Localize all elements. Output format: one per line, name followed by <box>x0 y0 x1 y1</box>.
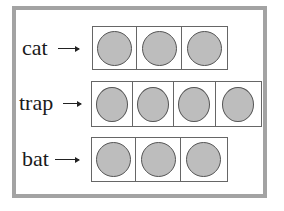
sound-token <box>187 31 222 66</box>
sound-box-row-trap <box>91 81 262 127</box>
arrow-icon <box>55 159 79 160</box>
sound-box <box>92 82 133 126</box>
arrow-icon <box>58 48 79 49</box>
sound-box <box>182 27 227 69</box>
sound-box <box>92 138 136 181</box>
sound-token <box>141 142 176 177</box>
word-label-cat: cat <box>22 37 48 59</box>
sound-token <box>96 142 131 177</box>
sound-box <box>133 82 175 126</box>
word-label-trap: trap <box>19 92 53 114</box>
sound-token <box>96 87 128 122</box>
word-label-bat: bat <box>22 148 49 170</box>
sound-box <box>174 82 216 126</box>
sound-token <box>222 87 254 122</box>
sound-token <box>137 87 169 122</box>
sound-box <box>137 27 181 69</box>
sound-box-row-cat <box>92 26 228 70</box>
arrow-icon <box>63 103 81 104</box>
sound-token <box>186 142 221 177</box>
sound-token <box>97 31 132 66</box>
sound-token <box>178 87 210 122</box>
sound-box <box>136 138 180 181</box>
sound-box-row-bat <box>91 137 228 182</box>
sound-box <box>216 82 261 126</box>
sound-box <box>93 27 137 69</box>
sound-box <box>181 138 227 181</box>
sound-token <box>142 31 177 66</box>
